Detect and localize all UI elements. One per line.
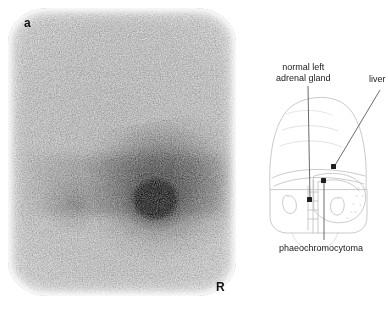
leader-line-liver: [334, 90, 380, 167]
scan-speckle-highlight: [8, 8, 236, 296]
label-adrenal-line-1: normal left: [276, 62, 331, 73]
marker-dot-adrenal: [307, 197, 312, 202]
marker-dot-liver: [331, 164, 336, 169]
anatomy-sketch: [252, 0, 388, 312]
label-normal-left-adrenal-gland: normal left adrenal gland: [276, 62, 331, 84]
torso-outline: [270, 97, 367, 250]
label-liver: liver: [369, 74, 386, 85]
panel-label-a: a: [24, 17, 31, 29]
orientation-marker-right: R: [216, 281, 225, 293]
scintigram-panel: a R: [0, 0, 252, 312]
scan-field-of-view: [8, 8, 236, 296]
leader-lines: [308, 86, 380, 240]
marker-dot-tumour: [321, 178, 326, 183]
figure-container: a R: [0, 0, 388, 312]
anatomical-key-panel: normal left adrenal gland liver phaeochr…: [252, 0, 388, 312]
leader-line-adrenal: [308, 86, 310, 200]
label-phaeochromocytoma: phaeochromocytoma: [279, 243, 363, 254]
label-adrenal-line-2: adrenal gland: [276, 73, 331, 84]
